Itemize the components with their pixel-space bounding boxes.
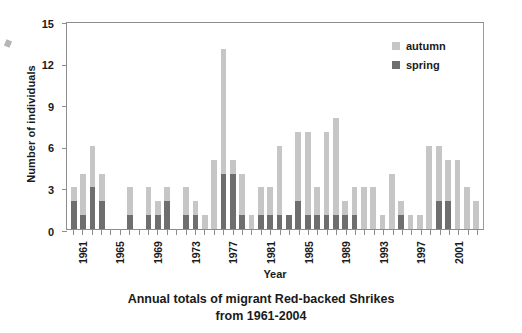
y-tick: 9 xyxy=(59,106,67,107)
bar-stack-1962 xyxy=(80,174,86,229)
bar-slot xyxy=(181,23,190,229)
bar-segment-autumn xyxy=(426,146,432,229)
bar-stack-1991 xyxy=(352,187,358,229)
caption-line-2: from 1961-2004 xyxy=(0,308,522,325)
bar-segment-autumn xyxy=(99,174,105,202)
bar-segment-spring xyxy=(221,174,227,229)
x-tick xyxy=(186,230,187,235)
bar-slot xyxy=(340,23,349,229)
bar-segment-autumn xyxy=(408,215,414,229)
x-tick xyxy=(233,230,234,235)
bar-slot xyxy=(322,23,331,229)
bar-stack-1989 xyxy=(333,118,339,229)
caption-line-1: Annual totals of migrant Red-backed Shri… xyxy=(0,291,522,308)
bar-segment-spring xyxy=(398,215,404,229)
bar-slot xyxy=(135,23,144,229)
bar-segment-spring xyxy=(314,215,320,229)
y-tick-label: 12 xyxy=(42,59,54,71)
legend-item-spring: spring xyxy=(392,59,446,71)
bar-segment-autumn xyxy=(352,187,358,215)
x-tick xyxy=(120,230,121,235)
x-tick-label: 1969 xyxy=(152,241,164,264)
bar-segment-spring xyxy=(90,187,96,229)
x-tick xyxy=(393,230,394,235)
y-tick: 15 xyxy=(59,23,67,24)
bar-stack-1980 xyxy=(249,215,255,229)
legend-label-autumn: autumn xyxy=(406,40,446,52)
bar-segment-spring xyxy=(99,201,105,229)
bar-segment-autumn xyxy=(389,174,395,229)
bar-segment-autumn xyxy=(90,146,96,188)
bar-stack-2002 xyxy=(455,160,461,229)
bar-segment-autumn xyxy=(267,187,273,215)
y-axis-title: Number of individuals xyxy=(25,29,37,219)
x-tick xyxy=(214,230,215,235)
x-tick-label: 1973 xyxy=(190,241,202,264)
x-tick xyxy=(430,230,431,235)
x-tick xyxy=(299,230,300,235)
bar-slot xyxy=(106,23,115,229)
bar-stack-1981 xyxy=(258,187,264,229)
bar-segment-spring xyxy=(164,201,170,229)
bar-segment-autumn xyxy=(445,160,451,202)
bar-stack-1986 xyxy=(305,132,311,229)
bar-segment-spring xyxy=(230,174,236,229)
bar-segment-spring xyxy=(436,201,442,229)
x-tick xyxy=(289,230,290,235)
bar-slot xyxy=(331,23,340,229)
y-tick: 3 xyxy=(59,189,67,190)
bar-slot xyxy=(209,23,218,229)
bar-stack-1982 xyxy=(267,187,273,229)
bar-stack-2004 xyxy=(473,201,479,229)
x-tick xyxy=(421,230,422,235)
x-tick xyxy=(449,230,450,235)
x-tick xyxy=(355,230,356,235)
bar-slot xyxy=(237,23,246,229)
x-tick xyxy=(129,230,130,235)
bar-stack-1992 xyxy=(361,187,367,229)
bar-stack-1975 xyxy=(202,215,208,229)
bar-segment-autumn xyxy=(80,174,86,216)
bar-stack-1998 xyxy=(417,215,423,229)
bar-slot xyxy=(294,23,303,229)
bar-stack-1983 xyxy=(277,146,283,229)
legend-item-autumn: autumn xyxy=(392,40,446,52)
bar-stack-1964 xyxy=(99,174,105,229)
bar-slot xyxy=(369,23,378,229)
bar-segment-spring xyxy=(295,201,301,229)
legend-swatch-autumn xyxy=(392,42,400,50)
legend-label-spring: spring xyxy=(406,59,440,71)
bar-segment-autumn xyxy=(417,215,423,229)
x-tick-label: 1961 xyxy=(77,241,89,264)
bar-stack-1976 xyxy=(211,160,217,229)
bar-slot xyxy=(69,23,78,229)
bar-stack-1963 xyxy=(90,146,96,229)
bar-stack-1978 xyxy=(230,160,236,229)
chart-legend: autumn spring xyxy=(392,40,446,78)
x-tick xyxy=(440,230,441,235)
bar-slot xyxy=(247,23,256,229)
bar-segment-autumn xyxy=(324,132,330,215)
x-tick xyxy=(195,230,196,235)
x-tick xyxy=(346,230,347,235)
bar-segment-autumn xyxy=(277,146,283,215)
bar-slot xyxy=(275,23,284,229)
bar-segment-autumn xyxy=(455,160,461,229)
x-tick xyxy=(92,230,93,235)
bar-stack-1990 xyxy=(342,201,348,229)
x-tick-label: 2001 xyxy=(453,241,465,264)
bar-segment-autumn xyxy=(258,187,264,215)
x-axis-title: Year xyxy=(66,268,484,280)
y-tick: 6 xyxy=(59,148,67,149)
x-tick xyxy=(327,230,328,235)
bar-stack-1999 xyxy=(426,146,432,229)
bar-stack-1993 xyxy=(370,187,376,229)
bar-stack-1988 xyxy=(324,132,330,229)
x-tick xyxy=(270,230,271,235)
bar-segment-autumn xyxy=(193,201,199,215)
bar-slot xyxy=(219,23,228,229)
bar-stack-2003 xyxy=(464,187,470,229)
bar-slot xyxy=(163,23,172,229)
x-axis-tick-labels: 1961196519691973197719811985198919931997… xyxy=(66,236,484,266)
y-tick-label: 9 xyxy=(48,101,54,113)
